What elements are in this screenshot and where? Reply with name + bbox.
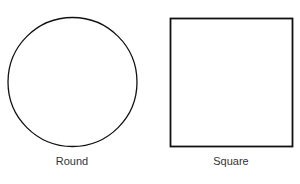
square-label: Square (191, 155, 271, 167)
round-label: Round (32, 155, 112, 167)
square-shape (171, 19, 293, 147)
round-shape (8, 18, 137, 147)
